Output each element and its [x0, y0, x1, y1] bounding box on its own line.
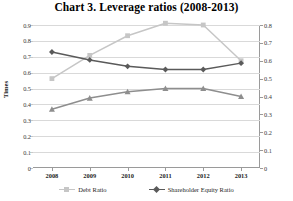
legend-swatch-icon	[59, 186, 75, 193]
legend-item-label: Debt Ratio	[78, 186, 106, 193]
data-point-marker	[87, 57, 93, 63]
series-line	[52, 89, 241, 110]
series-line	[52, 23, 241, 78]
data-point-marker	[49, 49, 55, 55]
series-third-ratio	[49, 86, 244, 112]
chart-container: Chart 3. Leverage ratios (2008-2013) 0.9…	[0, 0, 293, 201]
legend-item-label: Shareholder Equity Ratio	[168, 186, 234, 193]
series-layer	[0, 0, 293, 201]
series-debt-ratio	[50, 21, 244, 81]
data-point-marker	[125, 63, 131, 69]
data-point-marker	[201, 23, 206, 28]
legend-swatch-icon	[149, 186, 165, 193]
data-point-marker	[163, 67, 169, 73]
legend-item[interactable]: Shareholder Equity Ratio	[149, 186, 234, 193]
data-point-marker	[50, 76, 55, 81]
legend-item[interactable]: Debt Ratio	[59, 186, 106, 193]
data-point-marker	[200, 67, 206, 73]
series-shareholder-equity-ratio	[49, 49, 244, 72]
data-point-marker	[125, 33, 130, 38]
chart-legend: Debt RatioShareholder Equity Ratio	[0, 186, 293, 193]
data-point-marker	[163, 21, 168, 26]
